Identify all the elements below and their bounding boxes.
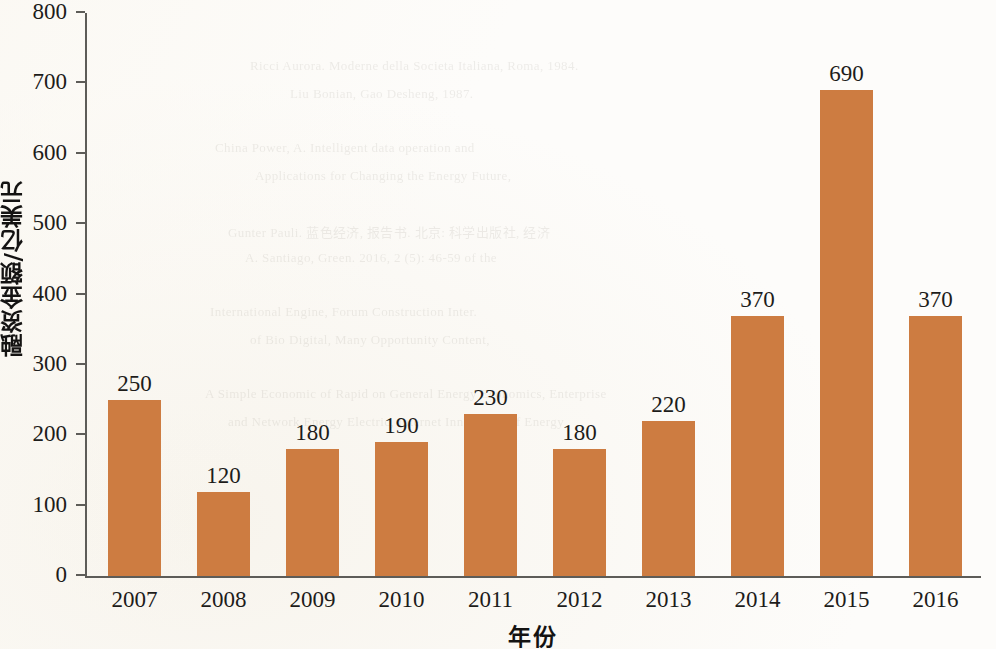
bar-group: 2202013: [624, 13, 713, 576]
y-axis-tick-label: 100: [33, 493, 68, 516]
x-axis-tick-label: 2008: [201, 588, 247, 611]
y-axis-tick: 0: [76, 574, 85, 576]
bar[interactable]: 230: [464, 414, 517, 576]
y-axis-line: [85, 13, 87, 578]
y-axis-tick-label: 200: [33, 422, 68, 445]
bar[interactable]: 120: [197, 492, 250, 576]
x-axis-title: 年份: [0, 618, 996, 649]
x-axis-tick-label: 2010: [379, 588, 425, 611]
y-axis-tick: 600: [76, 152, 85, 154]
bar-value-label: 180: [295, 421, 330, 444]
bar-group: 2502007: [90, 13, 179, 576]
y-axis-tick-label: 700: [33, 70, 68, 93]
bar-value-label: 220: [651, 393, 686, 416]
y-axis-tick: 800: [76, 11, 85, 13]
bar[interactable]: 190: [375, 442, 428, 576]
bar-value-label: 250: [117, 372, 152, 395]
x-axis-tick-label: 2007: [112, 588, 158, 611]
x-axis-tick-label: 2009: [290, 588, 336, 611]
bar-group: 3702014: [713, 13, 802, 576]
y-axis-tick: 700: [76, 81, 85, 83]
y-axis-tick: 100: [76, 504, 85, 506]
bar[interactable]: 370: [731, 316, 784, 576]
bar[interactable]: 250: [108, 400, 161, 576]
bar-value-label: 190: [384, 414, 419, 437]
bar-chart-figure: Ricci Aurora. Moderne della Societa Ital…: [0, 0, 996, 649]
plot-area: 0100200300400500600700800 25020071202008…: [85, 13, 981, 578]
bar[interactable]: 220: [642, 421, 695, 576]
x-axis-tick-label: 2012: [557, 588, 603, 611]
y-axis-tick-label: 0: [56, 563, 68, 586]
y-axis-tick-label: 600: [33, 141, 68, 164]
bar[interactable]: 180: [286, 449, 339, 576]
y-axis-tick: 200: [76, 433, 85, 435]
bar[interactable]: 370: [909, 316, 962, 576]
x-axis-tick-label: 2016: [913, 588, 959, 611]
bar-group: 6902015: [802, 13, 891, 576]
bar-group: 1902010: [357, 13, 446, 576]
x-axis-tick-label: 2013: [646, 588, 692, 611]
y-axis-tick-label: 800: [33, 0, 68, 23]
x-axis-tick-label: 2011: [468, 588, 513, 611]
y-axis-tick: 300: [76, 363, 85, 365]
y-axis-tick: 400: [76, 293, 85, 295]
bar-group: 3702016: [891, 13, 980, 576]
bar-value-label: 180: [562, 421, 597, 444]
bar[interactable]: 180: [553, 449, 606, 576]
y-axis-tick-label: 300: [33, 352, 68, 375]
x-axis-tick-label: 2015: [824, 588, 870, 611]
bar-group: 1802012: [535, 13, 624, 576]
y-axis-tick-label: 400: [33, 282, 68, 305]
bar-value-label: 230: [473, 386, 508, 409]
bar-group: 1802009: [268, 13, 357, 576]
bar-value-label: 370: [918, 288, 953, 311]
x-axis-line: [85, 576, 981, 578]
bar-value-label: 370: [740, 288, 775, 311]
y-axis-tick-label: 500: [33, 211, 68, 234]
y-axis-title: 融资金额/亿美元: [2, 180, 32, 357]
y-axis-tick: 500: [76, 222, 85, 224]
bar-group: 1202008: [179, 13, 268, 576]
bar-value-label: 690: [829, 62, 864, 85]
bar[interactable]: 690: [820, 90, 873, 576]
bar-value-label: 120: [206, 464, 241, 487]
x-axis-tick-label: 2014: [735, 588, 781, 611]
bar-group: 2302011: [446, 13, 535, 576]
